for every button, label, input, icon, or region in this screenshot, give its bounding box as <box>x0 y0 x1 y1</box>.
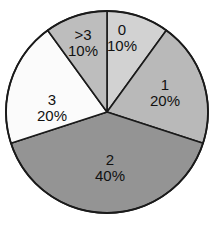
pie-chart: 010%120%240%320%>310% <box>0 0 214 236</box>
pie-chart-canvas <box>0 0 214 236</box>
pie-slices-group <box>6 11 208 213</box>
